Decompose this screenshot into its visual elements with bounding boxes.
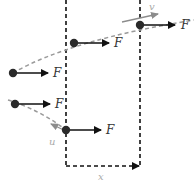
particle-3 xyxy=(136,21,144,29)
particle-5 xyxy=(62,126,70,134)
upper-trajectory-curve xyxy=(13,20,194,73)
force-label-2: F xyxy=(113,36,123,50)
velocity-u-label: u xyxy=(49,136,55,147)
force-label-1: F xyxy=(52,66,62,80)
particle-1 xyxy=(9,69,17,77)
force-diagram: F F F F F v u x xyxy=(0,0,194,185)
force-label-5: F xyxy=(105,123,115,137)
particle-4 xyxy=(11,100,19,108)
force-label-3: F xyxy=(180,18,190,32)
particle-2 xyxy=(70,39,78,47)
velocity-v-label: v xyxy=(149,1,155,12)
displacement-label: x xyxy=(98,171,104,182)
force-label-4: F xyxy=(54,97,64,111)
